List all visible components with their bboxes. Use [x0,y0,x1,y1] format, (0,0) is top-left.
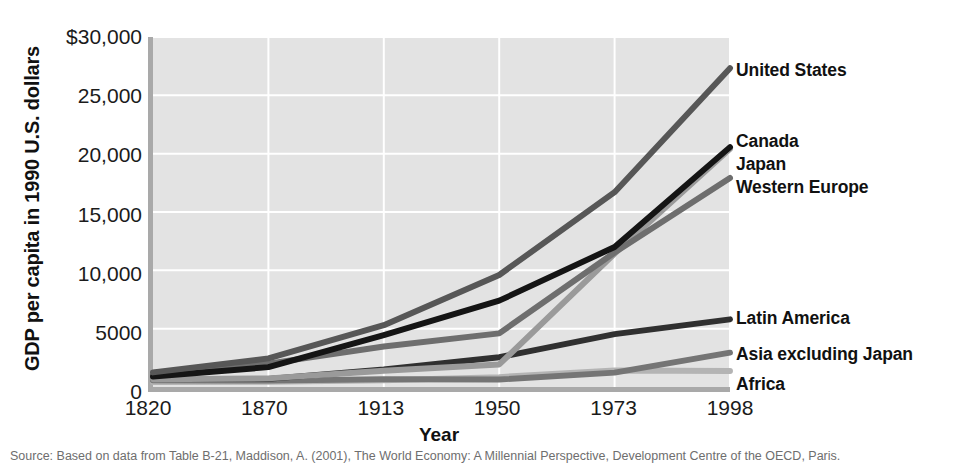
y-axis-tick: 10,000 [78,262,142,286]
x-axis-tick: 1913 [357,396,404,420]
plot-inner [153,37,730,387]
y-axis-tick: 25,000 [78,84,142,108]
y-axis-tick: 20,000 [78,143,142,167]
legend-label-latin-america: Latin America [736,308,850,329]
legend: United StatesCanadaJapanWestern EuropeLa… [736,0,974,462]
y-axis-tick: 15,000 [78,203,142,227]
legend-label-africa: Africa [736,374,785,395]
x-axis-tick: 1973 [590,396,637,420]
legend-label-canada: Canada [736,131,799,152]
x-axis-tick: 1950 [474,396,521,420]
y-axis-tick-labels: $30,00025,00020,00015,00010,00050000 [34,24,142,404]
source-caption: Source: Based on data from Table B-21, M… [10,449,970,463]
legend-label-united-states: United States [736,60,847,81]
legend-label-japan: Japan [736,154,786,175]
y-axis-tick: 5000 [95,321,142,345]
x-axis-tick: 1820 [125,396,172,420]
y-axis-tick: $30,000 [66,25,142,49]
series-line-japan [153,149,730,379]
legend-label-asia-excluding-japan: Asia excluding Japan [736,344,913,365]
x-axis-title: Year [148,424,730,446]
series-lines [153,37,730,387]
x-axis-tick: 1870 [241,396,288,420]
plot-area [148,37,730,392]
series-line-western-europe [153,178,730,373]
legend-label-western-europe: Western Europe [736,177,868,198]
